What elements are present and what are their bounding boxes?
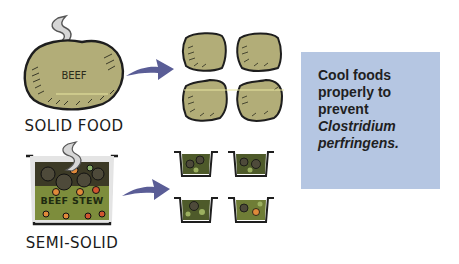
beef-chunk-icon — [18, 10, 128, 118]
beef-portions-icon — [180, 30, 290, 125]
note-line: prevent — [318, 101, 436, 118]
shallow-pans-icon — [172, 146, 280, 228]
arrow-right-icon — [120, 176, 172, 204]
shallow-containers-semisolid — [172, 146, 280, 228]
cut-portions-solid — [180, 30, 290, 125]
beef-stew-label: BEEF STEW — [32, 195, 112, 206]
bacteria-name-species: perfringens. — [318, 135, 436, 152]
semi-solid-caption: SEMI-SOLID — [12, 234, 132, 252]
note-line: properly to — [318, 84, 436, 101]
note-text: Cool foods properly to prevent Clostridi… — [318, 67, 436, 152]
stew-pot-icon — [22, 140, 122, 228]
food-safety-note: Cool foods properly to prevent Clostridi… — [301, 52, 440, 189]
note-line: Cool foods — [318, 67, 436, 84]
beef-label: BEEF — [54, 70, 94, 81]
arrow-right-icon — [124, 56, 176, 84]
solid-food-illustration: BEEF — [18, 10, 128, 118]
semi-solid-food-illustration: BEEF STEW — [22, 140, 122, 228]
solid-food-caption: SOLID FOOD — [14, 117, 134, 135]
bacteria-name-genus: Clostridium — [318, 118, 436, 135]
